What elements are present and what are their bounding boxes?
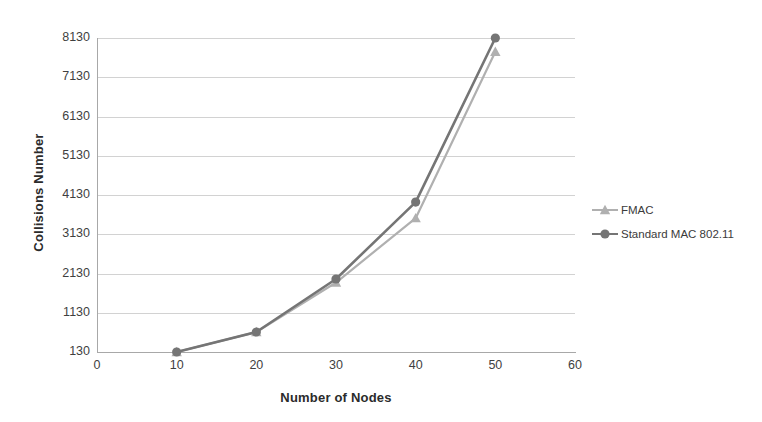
data-point-circle	[491, 33, 500, 42]
legend-triangle-icon	[599, 204, 611, 216]
data-point-circle	[331, 274, 340, 283]
chart-legend: FMACStandard MAC 802.11	[592, 198, 760, 246]
series-standard-mac	[172, 33, 500, 356]
legend-item-standard-mac[interactable]: Standard MAC 802.11	[592, 222, 760, 246]
data-point-circle	[172, 347, 181, 356]
legend-swatch	[592, 227, 618, 241]
x-axis-title: Number of Nodes	[97, 390, 575, 405]
data-point-circle	[252, 327, 261, 336]
data-point-triangle	[410, 213, 420, 222]
data-point-circle	[600, 229, 609, 238]
legend-circle-icon	[599, 228, 611, 240]
series-fmac	[171, 47, 500, 357]
chart-container: Collisions Number 1301130213031304130513…	[0, 0, 762, 422]
data-point-circle	[411, 197, 420, 206]
data-point-triangle	[600, 205, 610, 214]
legend-swatch	[592, 203, 618, 217]
legend-item-fmac[interactable]: FMAC	[592, 198, 760, 222]
legend-label: Standard MAC 802.11	[621, 228, 734, 240]
series-line	[177, 52, 496, 352]
legend-label: FMAC	[621, 204, 654, 216]
series-line	[177, 38, 496, 352]
